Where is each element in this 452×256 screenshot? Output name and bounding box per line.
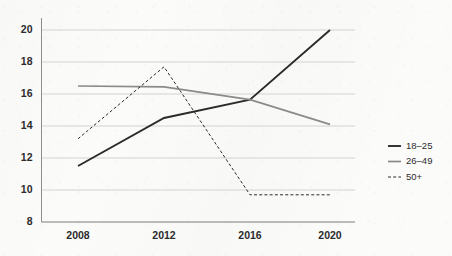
y-tick-label-18: 18 [21, 55, 33, 67]
gridlines [42, 30, 356, 222]
y-tick-label-8: 8 [27, 215, 33, 227]
legend-label-26-49: 26–49 [406, 155, 432, 166]
chart-legend: 18–2526–4950+ [388, 140, 432, 182]
x-tick-label-2008: 2008 [66, 229, 90, 241]
y-axis-tick-labels: 8101214161820 [21, 23, 33, 227]
y-tick-label-12: 12 [21, 151, 33, 163]
legend-label-18-25: 18–25 [406, 140, 432, 151]
x-tick-label-2020: 2020 [318, 229, 342, 241]
chart-canvas: 8101214161820 2008201220162020 18–2526–4… [0, 0, 452, 256]
line-chart: 8101214161820 2008201220162020 18–2526–4… [0, 0, 452, 256]
series-line-18-25 [78, 30, 330, 166]
y-tick-label-16: 16 [21, 87, 33, 99]
y-tick-label-14: 14 [21, 119, 33, 131]
series-line-26-49 [78, 86, 330, 124]
data-series [78, 30, 330, 195]
y-tick-label-20: 20 [21, 23, 33, 35]
x-tick-label-2012: 2012 [152, 229, 176, 241]
y-tick-label-10: 10 [21, 183, 33, 195]
legend-label-50+: 50+ [406, 171, 423, 182]
x-axis-tick-labels: 2008201220162020 [66, 229, 342, 241]
x-tick-label-2016: 2016 [238, 229, 262, 241]
